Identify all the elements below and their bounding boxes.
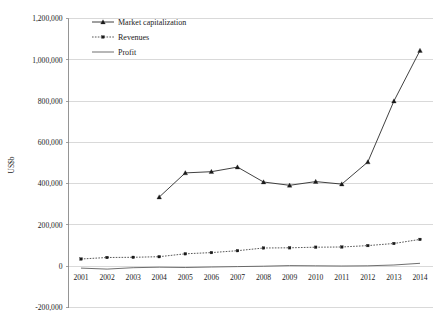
x-tick-label: 2001 (73, 273, 88, 282)
x-tick-label: 2003 (126, 273, 141, 282)
x-tick-label: 2007 (230, 273, 245, 282)
data-point-marker (106, 256, 109, 259)
data-point-marker (419, 238, 422, 241)
data-point-marker (158, 255, 161, 258)
x-tick-label: 2005 (178, 273, 193, 282)
x-tick-label: 2013 (386, 273, 401, 282)
x-tick-label: 2009 (282, 273, 297, 282)
x-tick-label: 2014 (412, 273, 427, 282)
chart-canvas: 1,200,0001,000,000800,000600,000400,0002… (0, 0, 441, 329)
data-point-marker (184, 253, 187, 256)
data-point-marker (288, 247, 291, 250)
legend-label: Revenues (118, 33, 149, 42)
y-tick-label: 800,000 (38, 97, 63, 106)
x-tick-label: 2010 (308, 273, 323, 282)
data-point-marker (80, 258, 83, 261)
data-point-marker (367, 244, 370, 247)
y-tick-label: 400,000 (38, 179, 63, 188)
x-tick-label: 2012 (360, 273, 375, 282)
line-chart: 1,200,0001,000,000800,000600,000400,0002… (0, 0, 441, 329)
x-tick-label: 2006 (204, 273, 219, 282)
legend-label: Profit (118, 48, 137, 57)
y-axis-title: US$b (7, 156, 16, 173)
y-tick-label: 1,200,000 (32, 14, 63, 23)
data-point-marker (393, 242, 396, 245)
y-tick-label: 200,000 (38, 221, 63, 230)
data-point-marker (314, 246, 317, 249)
legend-label: Market capitalization (118, 18, 186, 27)
x-tick-label: 2002 (100, 273, 115, 282)
x-tick-label: 2004 (152, 273, 167, 282)
legend-marker (102, 36, 105, 39)
data-point-marker (236, 249, 239, 252)
x-tick-label: 2011 (334, 273, 349, 282)
y-tick-label: -200,000 (35, 303, 62, 312)
data-point-marker (341, 246, 344, 249)
x-tick-label: 2008 (256, 273, 271, 282)
data-point-marker (132, 256, 135, 259)
y-tick-label: 1,000,000 (32, 56, 63, 65)
data-point-marker (210, 251, 213, 254)
y-tick-label: 0 (59, 262, 63, 271)
data-point-marker (262, 247, 265, 250)
y-tick-label: 600,000 (38, 138, 63, 147)
